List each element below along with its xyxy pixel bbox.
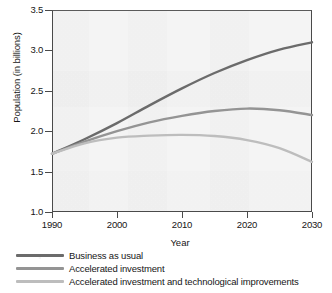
legend-swatch-1 [16,254,64,257]
legend-item-3: Accelerated investment and technological… [16,275,328,288]
y-axis-tick-label: 1.0 [17,206,43,217]
x-axis-tick [182,212,183,218]
x-axis-tick-label: 2010 [165,219,199,230]
y-axis-tick-label: 1.5 [17,166,43,177]
chart-legend: Business as usualAccelerated investmentA… [16,249,328,288]
x-axis-tick-label: 1990 [35,219,69,230]
y-axis-tick [45,10,52,11]
y-axis-tick [45,172,52,173]
x-axis-tick [52,212,53,218]
y-axis-tick [45,50,52,51]
x-axis-tick [247,212,248,218]
x-axis-tick-label: 2030 [295,219,329,230]
legend-swatch-2 [16,267,64,270]
series-lines [52,10,312,212]
y-axis-tick [45,91,52,92]
series-line-1 [52,42,312,154]
x-axis-tick-label: 2000 [100,219,134,230]
x-axis-tick-label: 2020 [230,219,264,230]
legend-label-3: Accelerated investment and technological… [69,276,299,287]
x-axis-tick [312,212,313,218]
legend-label-2: Accelerated investment [69,263,164,274]
legend-item-1: Business as usual [16,249,328,262]
y-axis-tick [45,131,52,132]
y-axis-tick [45,212,52,213]
x-axis-tick [117,212,118,218]
legend-swatch-3 [16,280,64,283]
population-projection-chart: 1.01.52.02.53.03.5 19902000201020202030 … [0,0,332,293]
y-axis-title: Population (in billions) [11,8,22,148]
x-axis-title: Year [150,237,210,248]
legend-item-2: Accelerated investment [16,262,328,275]
legend-label-1: Business as usual [69,250,143,261]
